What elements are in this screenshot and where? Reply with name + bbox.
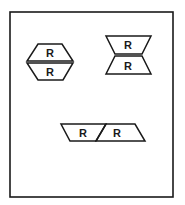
bowtie-pair: R R (106, 36, 151, 74)
hexagon-bottom-label: R (46, 66, 54, 78)
bowtie-top-label: R (124, 39, 132, 51)
parallelogram-pair: R R (61, 124, 145, 141)
bowtie-bottom-label: R (124, 60, 132, 72)
hexagon-pair: R R (27, 44, 73, 80)
parallelogram-left-label: R (79, 127, 87, 139)
hexagon-top-label: R (46, 47, 54, 59)
figure-canvas: R R R R R R (0, 0, 185, 205)
parallelogram-right-label: R (113, 127, 121, 139)
